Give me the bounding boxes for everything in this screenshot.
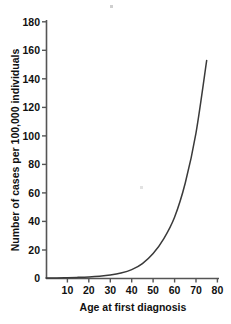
y-tick-label-160: 160 xyxy=(22,44,40,56)
x-tick-label-50: 50 xyxy=(147,284,159,296)
y-tick-label-180: 180 xyxy=(22,16,40,28)
x-tick-label-30: 30 xyxy=(104,284,116,296)
y-tick-label-80: 80 xyxy=(28,158,40,170)
chart-figure: 180 160 140 120 100 80 60 40 20 0 10 20 … xyxy=(0,0,231,324)
x-tick-label-10: 10 xyxy=(62,284,74,296)
y-tick-label-100: 100 xyxy=(22,130,40,142)
y-tick-label-20: 20 xyxy=(28,244,40,256)
x-tick-label-40: 40 xyxy=(126,284,138,296)
y-tick-label-140: 140 xyxy=(22,73,40,85)
y-axis-title: Number of cases per 100,000 individuals xyxy=(9,49,21,252)
y-tick-label-0: 0 xyxy=(34,272,40,284)
chart-svg: 180 160 140 120 100 80 60 40 20 0 10 20 … xyxy=(0,0,231,324)
artifact-speck-middle xyxy=(140,186,143,189)
x-tick-label-70: 70 xyxy=(190,284,202,296)
x-tick-label-60: 60 xyxy=(169,284,181,296)
artifact-speck-top xyxy=(110,5,113,8)
y-tick-label-120: 120 xyxy=(22,101,40,113)
x-axis-title: Age at first diagnosis xyxy=(80,301,187,313)
x-tick-label-80: 80 xyxy=(212,284,224,296)
y-tick-label-60: 60 xyxy=(28,187,40,199)
y-tick-label-40: 40 xyxy=(28,215,40,227)
x-tick-label-20: 20 xyxy=(83,284,95,296)
